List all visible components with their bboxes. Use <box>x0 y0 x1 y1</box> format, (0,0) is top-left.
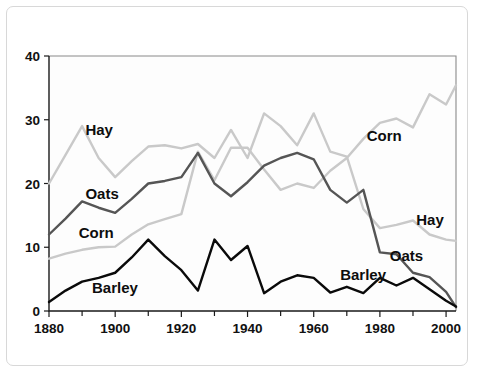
x-tick-label: 1880 <box>34 321 64 336</box>
x-tick-label: 1960 <box>299 321 329 336</box>
y-tick-label: 10 <box>25 240 40 255</box>
y-tick-label: 40 <box>25 49 40 64</box>
y-tick-label: 30 <box>25 113 40 128</box>
series-label-hay-right: Hay <box>416 211 444 228</box>
series-label-oats-left: Oats <box>85 185 118 202</box>
figure-caption <box>8 369 474 381</box>
x-tick-label: 1980 <box>365 321 395 336</box>
x-tick-label: 1900 <box>100 321 130 336</box>
series-label-oats-right: Oats <box>390 247 423 264</box>
series-label-barley-right: Barley <box>340 266 387 283</box>
series-label-hay-left: Hay <box>85 121 113 138</box>
plot-area <box>49 56 456 311</box>
series-label-barley-left: Barley <box>92 279 139 296</box>
series-label-corn-right: Corn <box>367 127 402 144</box>
y-tick-label: 0 <box>32 304 40 319</box>
chart-canvas: 0102030401880190019201940196019802000Hay… <box>7 7 469 367</box>
x-tick-label: 1920 <box>166 321 196 336</box>
x-tick-label: 1940 <box>233 321 263 336</box>
figure-card: 0102030401880190019201940196019802000Hay… <box>6 6 468 366</box>
crop-yield-line-chart: 0102030401880190019201940196019802000Hay… <box>7 7 469 367</box>
y-tick-label: 20 <box>25 177 40 192</box>
x-tick-label: 2000 <box>431 321 461 336</box>
series-label-corn-left: Corn <box>79 224 114 241</box>
